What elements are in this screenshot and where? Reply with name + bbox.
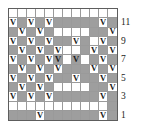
chart-cell-r4-c4: V [36, 83, 45, 92]
chart-cell-r8-c6: V [54, 46, 63, 55]
chart-cell-r11-c2 [18, 18, 27, 27]
chart-cell-r4-c2: V [18, 83, 27, 92]
v-stitch-icon: V [108, 83, 117, 91]
chart-cell-r2-c5 [45, 102, 54, 111]
chart-cell-r5-c5: V [45, 74, 54, 83]
chart-cell-r6-c10: V [90, 65, 99, 74]
chart-cell-r11-c11: V [99, 18, 108, 27]
chart-cell-r11-c6 [54, 18, 63, 27]
v-stitch-icon: V [54, 65, 62, 73]
chart-cell-r4-c12: V [108, 83, 117, 92]
chart-cell-r2-c1 [9, 102, 18, 111]
v-stitch-icon: V [45, 74, 53, 82]
v-stitch-icon: V [99, 55, 107, 63]
chart-cell-r7-c2 [18, 55, 27, 64]
v-stitch-icon: V [108, 28, 117, 36]
chart-cell-r11-c10 [90, 18, 99, 27]
chart-cell-r3-c5: V [45, 92, 54, 101]
chart-cell-r10-c6 [54, 28, 63, 37]
chart-cell-r5-c8: V [72, 74, 81, 83]
chart-cell-r12-c1 [9, 9, 18, 18]
chart-cell-r10-c11 [99, 28, 108, 37]
v-stitch-icon: V [27, 74, 35, 82]
v-stitch-icon: V [9, 74, 17, 82]
v-stitch-icon: V [72, 55, 80, 63]
chart-cell-r4-c3 [27, 83, 36, 92]
chart-cell-r9-c3: V [27, 37, 36, 46]
chart-cell-r7-c10 [90, 55, 99, 64]
chart-cell-r11-c8 [72, 18, 81, 27]
row-label-7: 7 [121, 54, 139, 65]
v-stitch-icon: V [9, 18, 17, 26]
chart-cell-r7-c3: V [27, 55, 36, 64]
chart-cell-r6-c11 [99, 65, 108, 74]
chart-cell-r9-c7 [63, 37, 72, 46]
chart-cell-r4-c11 [99, 83, 108, 92]
v-stitch-icon: V [99, 18, 107, 26]
chart-cell-r1-c12 [108, 111, 117, 120]
chart-cell-r7-c7 [63, 55, 72, 64]
chart-cell-r5-c11: V [99, 74, 108, 83]
chart-cell-r1-c11: V [99, 111, 108, 120]
chart-grid: VVVVVVVVVVVVVVVVVVVVVVVVVVVVVVVVVVVVVVVV… [9, 9, 117, 120]
chart-cell-r12-c12 [108, 9, 117, 18]
v-stitch-icon: V [18, 28, 26, 36]
chart-cell-r3-c9 [81, 92, 90, 101]
chart-cell-r11-c5: V [45, 18, 54, 27]
chart-cell-r12-c6 [54, 9, 63, 18]
chart-cell-r9-c11: V [99, 37, 108, 46]
v-stitch-icon: V [36, 83, 44, 91]
chart-cell-r10-c1 [9, 28, 18, 37]
v-stitch-icon: V [27, 37, 35, 45]
chart-cell-r2-c7 [63, 102, 72, 111]
chart-cell-r7-c8: V [72, 55, 81, 64]
chart-cell-r1-c4: V [36, 111, 45, 120]
chart-cell-r6-c5 [45, 65, 54, 74]
chart-cell-r10-c9 [81, 28, 90, 37]
chart-cell-r12-c7 [63, 9, 72, 18]
chart-cell-r9-c5: V [45, 37, 54, 46]
chart-cell-r1-c9 [81, 111, 90, 120]
chart-cell-r5-c6 [54, 74, 63, 83]
chart-cell-r5-c12 [108, 74, 117, 83]
chart-cell-r9-c12 [108, 37, 117, 46]
chart-cell-r7-c4 [36, 55, 45, 64]
chart-cell-r3-c2 [18, 92, 27, 101]
chart-cell-r4-c6 [54, 83, 63, 92]
chart-cell-r4-c10 [90, 83, 99, 92]
v-stitch-icon: V [36, 28, 44, 36]
chart-cell-r5-c1: V [9, 74, 18, 83]
chart-cell-r6-c9 [81, 65, 90, 74]
v-stitch-icon: V [45, 92, 53, 100]
v-stitch-icon: V [18, 46, 26, 54]
v-stitch-icon: V [54, 46, 62, 54]
v-stitch-icon: V [108, 46, 117, 54]
chart-cell-r12-c10 [90, 9, 99, 18]
v-stitch-icon: V [54, 55, 62, 63]
v-stitch-icon: V [45, 18, 53, 26]
chart-cell-r12-c2 [18, 9, 27, 18]
chart-cell-r8-c10: V [90, 46, 99, 55]
row-label-5: 5 [121, 73, 139, 84]
chart-cell-r1-c10 [90, 111, 99, 120]
chart-cell-r1-c1 [9, 111, 18, 120]
chart-cell-r9-c8: V [72, 37, 81, 46]
chart-cell-r7-c12 [108, 55, 117, 64]
chart-cell-r8-c4: V [36, 46, 45, 55]
chart-cell-r8-c8 [72, 46, 81, 55]
chart-cell-r3-c3: V [27, 92, 36, 101]
v-stitch-icon: V [36, 65, 44, 73]
chart-cell-r3-c4 [36, 92, 45, 101]
v-stitch-icon: V [72, 37, 80, 45]
chart-cell-r6-c7 [63, 65, 72, 74]
chart-cell-r4-c7 [63, 83, 72, 92]
chart-cell-r7-c9 [81, 55, 90, 64]
chart-cell-r9-c6 [54, 37, 63, 46]
chart-cell-r12-c8 [72, 9, 81, 18]
v-stitch-icon: V [99, 74, 107, 82]
v-stitch-icon: V [45, 37, 53, 45]
chart-cell-r1-c7 [63, 111, 72, 120]
chart-cell-r6-c6: V [54, 65, 63, 74]
v-stitch-icon: V [90, 65, 98, 73]
chart-cell-r3-c7 [63, 92, 72, 101]
